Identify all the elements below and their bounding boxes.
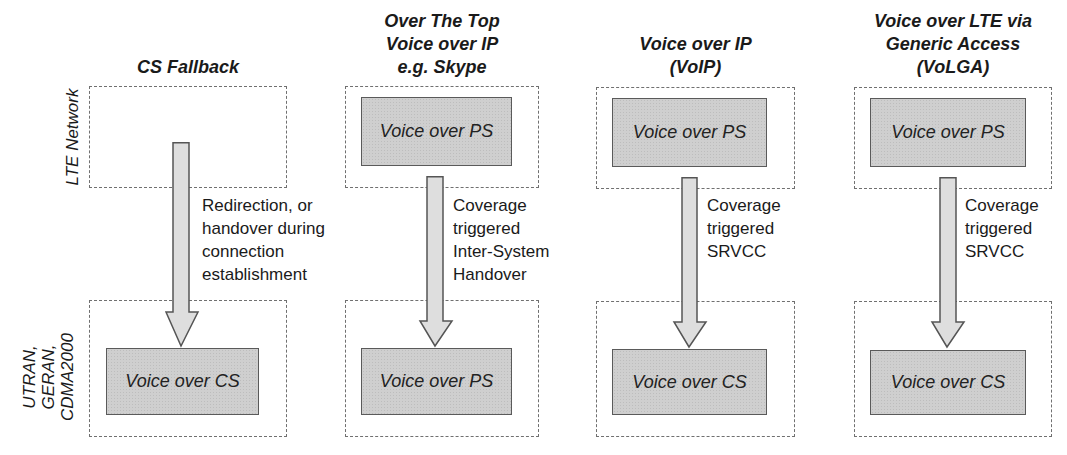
- transition-description: Coverage triggered SRVCC: [707, 194, 781, 263]
- transition-arrow-down-icon: [930, 177, 966, 349]
- column-heading: Over The Top Voice over IP e.g. Skype: [345, 10, 539, 79]
- box-label: Voice over CS: [891, 372, 1005, 393]
- transition-arrow-down-icon: [418, 176, 454, 348]
- row-label-line: CDMA2000: [58, 319, 77, 435]
- note-line: Coverage: [707, 194, 781, 217]
- transition-description: Coverage triggered Inter-System Handover: [453, 194, 549, 286]
- heading-line: Voice over LTE via: [854, 10, 1052, 33]
- row-label-lte-network: LTE Network: [63, 84, 82, 190]
- note-line: Redirection, or: [202, 194, 325, 217]
- box-label: Voice over PS: [380, 121, 493, 142]
- box-label: Voice over PS: [380, 371, 493, 392]
- box-label: Voice over PS: [633, 122, 746, 143]
- box-label: Voice over CS: [632, 372, 746, 393]
- box-label: Voice over CS: [125, 371, 239, 392]
- row-label-utran-geran-cdma2000: UTRAN, GERAN, CDMA2000: [20, 319, 77, 435]
- heading-line: Over The Top: [345, 10, 539, 33]
- column-heading: CS Fallback: [89, 56, 287, 79]
- heading-line: CS Fallback: [89, 56, 287, 79]
- heading-line: Generic Access: [854, 33, 1052, 56]
- heading-line: Voice over IP: [345, 33, 539, 56]
- voice-over-ps-box: Voice over PS: [361, 348, 512, 415]
- voice-over-ps-box: Voice over PS: [612, 98, 767, 167]
- column-heading: Voice over IP (VoIP): [596, 33, 795, 79]
- note-line: Handover: [453, 263, 549, 286]
- note-line: Coverage: [965, 194, 1039, 217]
- row-label-text: LTE Network: [63, 84, 82, 190]
- note-line: connection: [202, 240, 325, 263]
- transition-arrow-down-icon: [164, 142, 200, 348]
- note-line: establishment: [202, 263, 325, 286]
- heading-line: (VoIP): [596, 56, 795, 79]
- note-line: handover during: [202, 217, 325, 240]
- heading-line: Voice over IP: [596, 33, 795, 56]
- box-label: Voice over PS: [891, 122, 1004, 143]
- heading-line: (VoLGA): [854, 56, 1052, 79]
- note-line: triggered: [707, 217, 781, 240]
- transition-description: Redirection, or handover during connecti…: [202, 194, 325, 286]
- voice-over-cs-box: Voice over CS: [870, 350, 1026, 415]
- voice-over-cs-box: Voice over CS: [612, 349, 767, 415]
- note-line: triggered: [453, 217, 549, 240]
- note-line: SRVCC: [965, 240, 1039, 263]
- voice-over-ps-box: Voice over PS: [361, 97, 512, 166]
- transition-description: Coverage triggered SRVCC: [965, 194, 1039, 263]
- row-label-line: GERAN,: [39, 319, 58, 435]
- note-line: Coverage: [453, 194, 549, 217]
- transition-arrow-down-icon: [672, 177, 708, 349]
- row-label-line: UTRAN,: [20, 319, 39, 435]
- note-line: SRVCC: [707, 240, 781, 263]
- voice-over-ps-box: Voice over PS: [870, 98, 1026, 167]
- heading-line: e.g. Skype: [345, 56, 539, 79]
- voice-over-cs-box: Voice over CS: [106, 348, 259, 415]
- note-line: triggered: [965, 217, 1039, 240]
- note-line: Inter-System: [453, 240, 549, 263]
- column-heading: Voice over LTE via Generic Access (VoLGA…: [854, 10, 1052, 79]
